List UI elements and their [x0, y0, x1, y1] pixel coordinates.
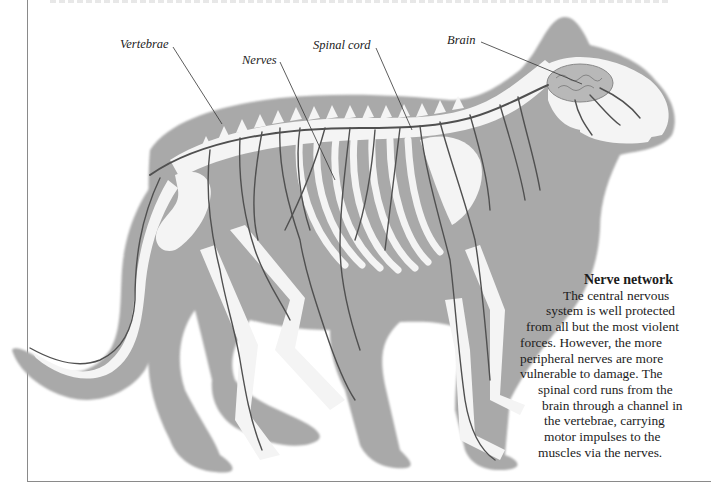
label-vertebrae: Vertebrae — [120, 37, 169, 52]
caption-line: peripheral nerves are more — [520, 351, 710, 367]
caption-line: spinal cord runs from the — [520, 382, 710, 398]
caption-line: muscles via the nerves. — [520, 445, 710, 461]
caption-line: The central nervous — [520, 288, 710, 304]
caption-line: from all but the most violent — [520, 319, 710, 335]
caption-title: Nerve network — [520, 272, 710, 288]
caption-line: forces. However, the more — [520, 335, 710, 351]
label-brain: Brain — [447, 33, 475, 48]
vertebrae-leader — [173, 47, 222, 124]
caption-line: the vertebrae, carrying — [520, 413, 710, 429]
caption-line: system is well protected — [520, 303, 710, 319]
label-spinal-cord: Spinal cord — [313, 38, 371, 53]
label-nerves: Nerves — [242, 53, 277, 68]
caption-nerve-network: Nerve network The central nervous system… — [520, 272, 710, 460]
caption-line: vulnerable to damage. The — [520, 366, 710, 382]
caption-line: motor impulses to the — [520, 429, 710, 445]
caption-line: brain through a channel in — [520, 398, 710, 414]
